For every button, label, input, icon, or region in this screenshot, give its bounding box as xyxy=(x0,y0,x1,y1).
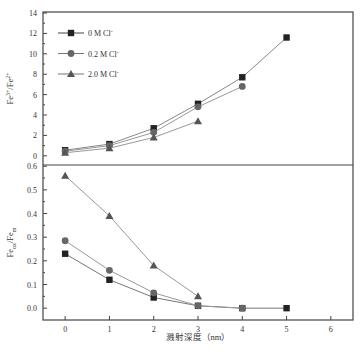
chart: 02468101214Fe3+/Fe2+ 0.00.10.20.30.40.50… xyxy=(0,0,361,356)
data-point-circle xyxy=(195,302,202,309)
legend-label: 0.2 M Cl- xyxy=(88,49,119,59)
y-axis-title: Fe3+/Fe2+ xyxy=(5,72,15,105)
series-line-2 xyxy=(65,176,198,297)
y-tick-label: 0.3 xyxy=(27,233,37,242)
top-panel: 02468101214Fe3+/Fe2+ xyxy=(5,9,290,161)
legend-label-sup: - xyxy=(117,69,119,75)
y-title-part: /Fe xyxy=(5,79,15,90)
x-tick-label: 5 xyxy=(285,325,289,334)
y-tick-label: 4 xyxy=(33,111,37,120)
data-point-triangle xyxy=(194,292,202,299)
data-point-circle xyxy=(239,83,246,90)
legend-label: 2.0 M Cl- xyxy=(88,69,119,79)
data-point-square xyxy=(239,74,245,80)
legend-label-sup: - xyxy=(111,28,113,34)
data-point-circle xyxy=(195,103,202,110)
y-tick-label: 0.1 xyxy=(27,281,37,290)
data-point-circle xyxy=(150,289,157,296)
legend-label-sup: - xyxy=(117,49,119,55)
data-point-triangle xyxy=(61,172,69,179)
x-tick-label: 1 xyxy=(107,325,111,334)
y-title-part: /Fe xyxy=(5,232,15,243)
data-point-circle xyxy=(239,305,246,312)
y-axis-title: Feox/Fem xyxy=(5,227,17,257)
x-tick-label: 4 xyxy=(240,325,244,334)
x-tick-label: 0 xyxy=(63,325,67,334)
legend: 0 M Cl-0.2 M Cl-2.0 M Cl- xyxy=(58,28,119,79)
y-title-sub: m xyxy=(11,227,17,232)
y-tick-label: 6 xyxy=(33,91,37,100)
data-point-square xyxy=(62,251,68,257)
legend-marker-square xyxy=(68,30,74,36)
y-title-sup: 2+ xyxy=(5,72,11,79)
data-point-triangle xyxy=(194,117,202,124)
y-title-part: Fe xyxy=(5,249,15,258)
y-tick-label: 8 xyxy=(33,70,37,79)
y-tick-label: 0 xyxy=(33,152,37,161)
data-point-circle xyxy=(106,267,113,274)
y-tick-label: 0.2 xyxy=(27,257,37,266)
legend-label: 0 M Cl- xyxy=(88,28,113,38)
y-tick-label: 0.6 xyxy=(27,162,37,171)
data-point-circle xyxy=(62,237,69,244)
y-tick-label: 0.5 xyxy=(27,186,37,195)
y-tick-label: 14 xyxy=(29,9,37,18)
data-point-square xyxy=(283,34,289,40)
y-tick-label: 12 xyxy=(29,29,37,38)
series-line-1 xyxy=(65,86,242,151)
x-tick-label: 2 xyxy=(152,325,156,334)
x-tick-label: 6 xyxy=(329,325,333,334)
series-line-2 xyxy=(65,121,198,153)
data-point-square xyxy=(106,277,112,283)
legend-marker-circle xyxy=(68,50,75,57)
x-axis-title: 溅射深度（nm） xyxy=(166,332,231,342)
bottom-panel: 0.00.10.20.30.40.50.60123456Feox/Fem xyxy=(5,162,333,334)
y-tick-label: 0.0 xyxy=(27,304,37,313)
y-tick-label: 2 xyxy=(33,131,37,140)
y-title-part: Fe xyxy=(5,96,15,105)
y-tick-label: 10 xyxy=(29,50,37,59)
y-tick-label: 0.4 xyxy=(27,210,37,219)
data-point-square xyxy=(283,305,289,311)
